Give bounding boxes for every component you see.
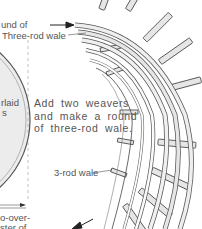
label-bottom-partial-2: ster of: [0, 222, 26, 229]
label-three-rod-wale: Three-rod wale: [2, 30, 66, 41]
basket-base: [0, 30, 30, 210]
label-round-of-partial: und of: [1, 19, 27, 30]
label-3-rod-wale: 3-rod wale: [54, 167, 98, 178]
label-overlaid-partial-2: s: [2, 107, 7, 118]
caption-line-1: Add two weavers: [34, 97, 137, 110]
caption-line-2: and make a round: [34, 110, 137, 123]
caption-line-3: of three-rod wale.: [34, 122, 137, 135]
caption-add-weavers: Add two weavers and make a round of thre…: [34, 97, 137, 135]
